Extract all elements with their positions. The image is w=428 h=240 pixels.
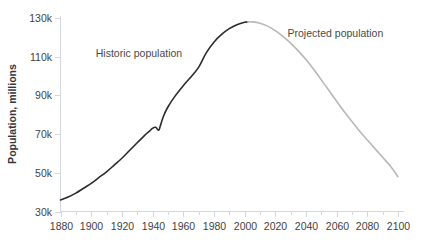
x-tick-label: 1940 — [142, 220, 166, 232]
y-tick-label: 130k — [29, 12, 53, 24]
x-tick-label: 1900 — [80, 220, 104, 232]
projected-population-label: Projected population — [288, 27, 384, 39]
x-axis-tick-marks — [62, 212, 399, 218]
y-tick-label: 50k — [35, 167, 53, 179]
population-chart: 30k50k70k90k110k130k 1880190019201940196… — [0, 0, 428, 240]
x-tick-label: 2040 — [295, 220, 319, 232]
x-tick-label: 2080 — [356, 220, 380, 232]
y-tick-label: 110k — [30, 51, 53, 63]
x-tick-label: 2000 — [234, 220, 258, 232]
projected-population-line — [248, 22, 398, 177]
y-tick-label: 30k — [35, 206, 53, 218]
chart-canvas: 30k50k70k90k110k130k 1880190019201940196… — [0, 0, 428, 240]
x-tick-label: 1880 — [50, 220, 74, 232]
x-tick-label: 2060 — [326, 220, 350, 232]
y-axis-title: Population, millions — [6, 64, 18, 164]
y-axis-tick-marks — [55, 19, 61, 213]
y-tick-label: 70k — [35, 128, 53, 140]
x-tick-label: 1920 — [111, 220, 135, 232]
y-tick-label: 90k — [35, 89, 53, 101]
historic-population-label: Historic population — [96, 47, 183, 59]
x-tick-label: 1980 — [203, 220, 227, 232]
x-tick-label: 2100 — [387, 220, 411, 232]
x-tick-label: 2020 — [264, 220, 288, 232]
y-axis-tick-labels: 30k50k70k90k110k130k — [29, 12, 53, 218]
x-tick-label: 1960 — [172, 220, 196, 232]
x-axis-tick-labels: 1880190019201940196019802000202020402060… — [50, 220, 411, 232]
